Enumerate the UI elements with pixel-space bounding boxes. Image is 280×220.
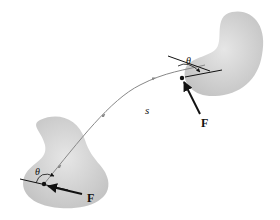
path-label: s: [145, 104, 149, 116]
force-label-start: F: [87, 191, 94, 206]
body-end: [185, 11, 264, 96]
angle-label-start: θ: [35, 166, 40, 177]
force-label-end: F: [201, 116, 208, 131]
diagram-svg: [0, 0, 280, 220]
diagram-canvas: s F F θ θ: [0, 0, 280, 220]
body-start: [23, 117, 108, 209]
angle-label-end: θ: [186, 55, 191, 66]
